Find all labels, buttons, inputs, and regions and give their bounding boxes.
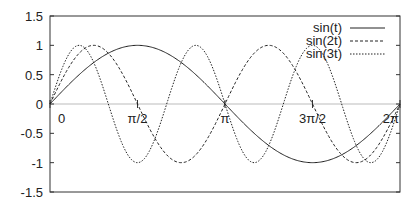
y-tick-label: 0 — [36, 97, 43, 112]
line-chart: 1.510.50-0.5-1-1.50π/2π3π/22πsin(t)sin(2… — [0, 0, 420, 205]
y-tick-label: -1 — [31, 156, 43, 171]
x-tick-label: 0 — [58, 111, 65, 126]
legend-label: sin(3t) — [306, 46, 342, 61]
y-tick-label: 0.5 — [25, 68, 43, 83]
y-tick-label: 1.5 — [25, 9, 43, 24]
y-tick-label: -1.5 — [21, 185, 43, 200]
y-tick-label: -0.5 — [21, 126, 43, 141]
y-tick-label: 1 — [36, 38, 43, 53]
